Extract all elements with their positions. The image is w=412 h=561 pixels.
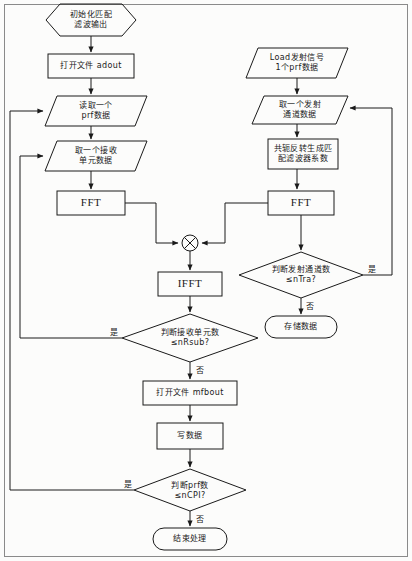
conj-reverse-shape bbox=[268, 139, 338, 169]
read-rx-unit-shape bbox=[45, 141, 147, 171]
read-prf-shape bbox=[45, 96, 147, 126]
load-tx-shape bbox=[246, 48, 348, 78]
flowchart-canvas: 初始化匹配 滤波输出 打开文件 adout 读取一个 prf数据 取一个接收 单… bbox=[0, 0, 412, 561]
decide-rx-unit-shape bbox=[122, 314, 258, 362]
decide-prf-shape bbox=[134, 469, 246, 511]
write-data-shape bbox=[157, 423, 223, 449]
edge-decide-tx-yes-loop bbox=[350, 108, 392, 275]
edge-decide-rx-yes-loop bbox=[20, 156, 122, 338]
end-shape bbox=[153, 528, 227, 550]
edge-fft-left-to-multiply bbox=[125, 203, 178, 243]
open-adout-shape bbox=[48, 54, 134, 78]
decide-tx-chan-shape bbox=[239, 252, 363, 298]
read-tx-chan-shape bbox=[252, 96, 348, 124]
ifft-shape bbox=[158, 272, 222, 296]
flowchart-graphics bbox=[0, 0, 412, 561]
store-data-shape bbox=[265, 316, 337, 338]
start-hexagon-shape bbox=[46, 4, 136, 36]
edge-fft-right-to-multiply bbox=[202, 203, 268, 243]
open-mfbout-shape bbox=[143, 381, 237, 405]
fft-right-shape bbox=[268, 191, 334, 215]
edge-decide-prf-yes-loop bbox=[10, 111, 134, 490]
fft-left-shape bbox=[57, 191, 125, 215]
